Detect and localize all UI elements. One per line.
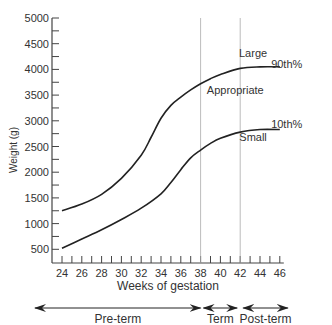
annotation-label: 90th%: [271, 58, 302, 70]
y-tick-label: 5000: [25, 12, 49, 24]
y-tick-label: 1000: [25, 218, 49, 230]
gestation-periods: Pre-termTermPost-term: [35, 308, 292, 325]
x-tick-label: 36: [175, 267, 187, 279]
y-tick-label: 3500: [25, 89, 49, 101]
annotation-label: Appropriate: [207, 84, 264, 96]
curve-10thpct: [62, 129, 280, 248]
y-tick-label: 2500: [25, 141, 49, 153]
period-label: Pre-term: [94, 312, 141, 325]
x-tick-label: 28: [95, 267, 107, 279]
period-label: Term: [207, 312, 234, 325]
growth-chart: 500100015002000250030003500400045005000 …: [0, 0, 332, 325]
x-tick-label: 44: [254, 267, 266, 279]
y-tick-label: 1500: [25, 192, 49, 204]
annotation-label: Small: [239, 131, 267, 143]
x-tick-label: 42: [234, 267, 246, 279]
annotation-label: 10th%: [271, 118, 302, 130]
x-axis: 242628303234363840424446: [52, 256, 286, 279]
y-tick-label: 3000: [25, 115, 49, 127]
x-tick-label: 24: [56, 267, 68, 279]
annotations: Large90th%Appropriate10th%Small: [207, 47, 303, 144]
y-tick-label: 500: [31, 243, 49, 255]
x-tick-label: 38: [194, 267, 206, 279]
y-axis: 500100015002000250030003500400045005000: [25, 12, 59, 263]
x-tick-label: 26: [76, 267, 88, 279]
x-tick-label: 40: [214, 267, 226, 279]
reference-lines: [201, 18, 241, 263]
x-axis-label: Weeks of gestation: [117, 279, 219, 293]
x-tick-label: 46: [274, 267, 286, 279]
x-tick-label: 30: [115, 267, 127, 279]
x-tick-label: 32: [135, 267, 147, 279]
x-tick-label: 34: [155, 267, 167, 279]
y-tick-label: 2000: [25, 166, 49, 178]
period-label: Post-term: [239, 312, 291, 325]
annotation-label: Large: [239, 47, 267, 59]
y-axis-label: Weight (g): [8, 127, 19, 173]
y-tick-label: 4000: [25, 63, 49, 75]
y-tick-label: 4500: [25, 38, 49, 50]
